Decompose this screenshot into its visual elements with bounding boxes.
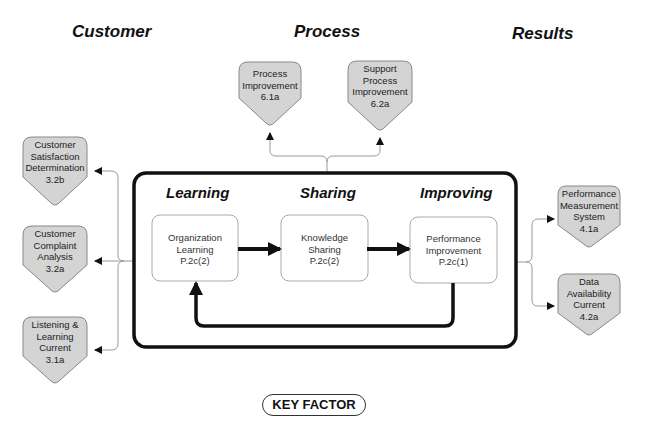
node-customer-satisfaction[interactable]: Customer Satisfaction Determination 3.2b	[21, 139, 89, 185]
node-data-availability[interactable]: Data Availability Current 4.2a	[556, 276, 622, 322]
node-customer-complaint[interactable]: Customer Complaint Analysis 3.2a	[21, 228, 89, 274]
box-knowledge-sharing-label: Knowledge Sharing P.2c(2)	[281, 232, 368, 267]
node-support-process-improvement[interactable]: Support Process Improvement 6.2a	[348, 63, 412, 109]
node-listening-learning[interactable]: Listening & Learning Current 3.1a	[21, 319, 89, 365]
connector-to-customer-nodes	[96, 171, 133, 350]
stage-sharing: Sharing	[300, 184, 356, 201]
node-process-improvement[interactable]: Process Improvement 6.1a	[239, 68, 301, 103]
connector-to-process-nodes	[270, 135, 380, 172]
diagram-canvas	[0, 0, 646, 439]
node-performance-measurement[interactable]: Performance Measurement System 4.1a	[556, 188, 622, 234]
box-organization-learning-label: Organization Learning P.2c(2)	[152, 232, 238, 267]
stage-learning: Learning	[166, 184, 229, 201]
box-performance-improvement-label: Performance Improvement P.2c(1)	[410, 233, 497, 268]
stage-improving: Improving	[420, 184, 493, 201]
key-factor-label: KEY FACTOR	[262, 394, 366, 416]
connector-to-results-nodes	[517, 219, 553, 306]
